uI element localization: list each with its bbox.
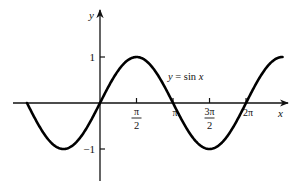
x-tick-label-denominator: 2 <box>134 120 139 131</box>
y-tick-label: −1 <box>83 143 95 155</box>
x-axis-label: x <box>277 107 283 119</box>
y-axis-label: y <box>88 9 94 21</box>
y-tick-label: 1 <box>90 51 96 63</box>
sine-chart: x y 1−1 π2π3π22π y = sin x <box>0 0 295 190</box>
x-tick-label-denominator: 2 <box>207 120 212 131</box>
x-tick-label-numerator: 3π <box>204 106 214 117</box>
curve-annotation: y = sin x <box>167 71 204 82</box>
x-tick-label-numerator: π <box>134 106 139 117</box>
